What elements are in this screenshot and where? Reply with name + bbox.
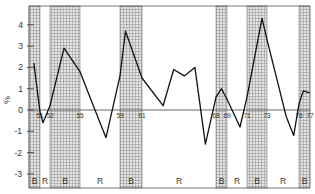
- shaded-period-band: [50, 6, 80, 188]
- shaded-period-band: [247, 6, 267, 188]
- line-chart: -3-2-101234 5152555961686971737677 BRBRB…: [0, 0, 315, 194]
- shaded-period-band: [120, 6, 142, 188]
- y-tick-label: -1: [14, 126, 22, 136]
- band-label: R: [234, 176, 240, 186]
- band-label: R: [176, 176, 182, 186]
- y-tick-label: 4: [18, 20, 23, 30]
- band-label: B: [302, 176, 308, 186]
- band-label: R: [42, 176, 48, 186]
- x-tick-label: 61: [138, 112, 146, 119]
- x-tick-label: 68: [212, 112, 220, 119]
- band-label: B: [62, 176, 68, 186]
- y-tick-label: 3: [18, 41, 23, 51]
- band-label: B: [32, 176, 38, 186]
- y-axis-label: %: [2, 96, 12, 104]
- y-tick-label: 2: [18, 62, 23, 72]
- x-tick-label: 71: [243, 112, 251, 119]
- x-tick-label: 55: [76, 112, 84, 119]
- band-label: B: [128, 176, 134, 186]
- y-tick-label: 1: [18, 84, 23, 94]
- x-tick-label: 69: [223, 112, 231, 119]
- x-tick-labels: 5152555961686971737677: [36, 112, 314, 119]
- y-tick-label: -2: [14, 148, 22, 158]
- band-label: R: [97, 176, 103, 186]
- y-tick-label: -3: [14, 169, 22, 179]
- y-tick-label: 0: [18, 105, 23, 115]
- band-label: R: [280, 176, 286, 186]
- band-label: B: [219, 176, 225, 186]
- x-tick-label: 77: [306, 112, 314, 119]
- period-bands: [29, 6, 310, 188]
- band-label: B: [254, 176, 260, 186]
- x-tick-label: 59: [116, 112, 124, 119]
- x-tick-label: 73: [263, 112, 271, 119]
